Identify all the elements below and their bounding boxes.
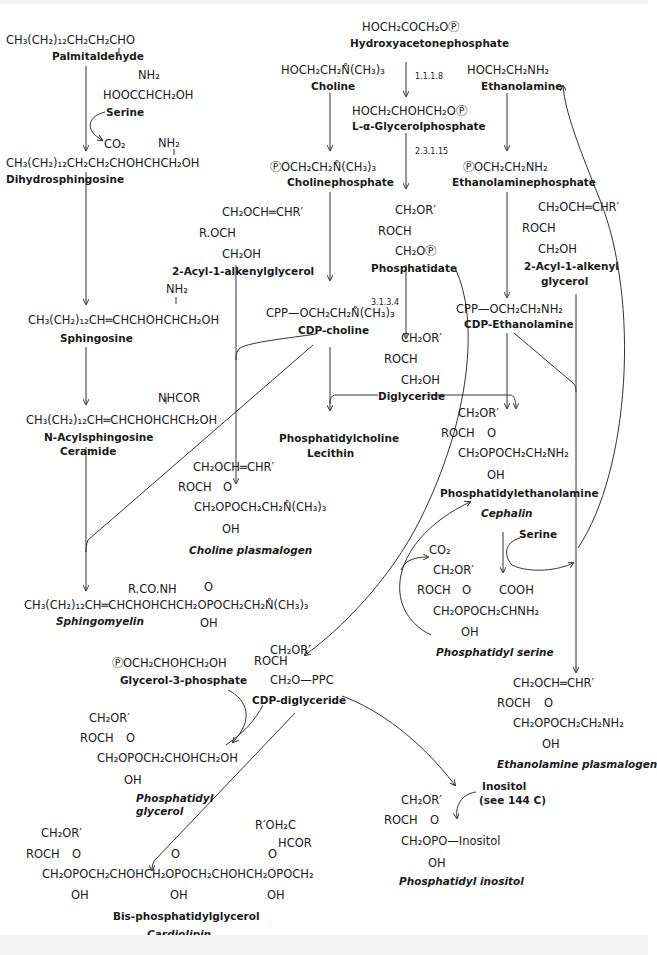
inositol-label: Inositol bbox=[482, 779, 526, 793]
phosphatidyl-glycerol-line2: ROCH bbox=[80, 731, 114, 745]
choline-plasmalogen-line3: CH₂OPOCH₂CH₂N̊(CH₃)₃ bbox=[194, 500, 326, 514]
acylalkenylglycerol-1-line2: R.OCH bbox=[199, 226, 236, 240]
cardiolipin-line1: CH₂OR′ bbox=[41, 826, 82, 840]
acylalkenylglycerol-1-line3: CH₂OH bbox=[222, 247, 261, 261]
palmitaldehyde-formula: CH₃(CH₂)₁₂CH₂CH₂CHO bbox=[6, 33, 135, 47]
choline-label: Choline bbox=[311, 79, 355, 93]
phosphatidyl-inositol-line1: CH₂OR′ bbox=[401, 793, 442, 807]
phosphatidyl-serine-line3: CH₂OPOCH₂CHNH₂ bbox=[433, 604, 539, 618]
phosphatidate-line2: ROCH bbox=[378, 224, 412, 238]
choline-plasmalogen-line2: ROCH bbox=[178, 480, 212, 494]
sphingomyelin-rconh: R.CO.NH bbox=[128, 582, 177, 596]
sphingomyelin-oh: OH bbox=[200, 616, 218, 630]
cardiolipin-o3: O bbox=[268, 847, 277, 861]
phosphatidate-line3: CH₂OⓅ bbox=[395, 244, 436, 258]
cdp-ethanolamine-formula: CPP—OCH₂CH₂NH₂ bbox=[456, 302, 563, 316]
ceramide-label-2: Ceramide bbox=[60, 444, 116, 458]
cardiolipin-line2: ROCH bbox=[26, 847, 60, 861]
choline-plasmalogen-oh: OH bbox=[222, 522, 240, 536]
co2-label-1: CO₂ bbox=[104, 137, 126, 151]
serine-label-2: Serine bbox=[519, 527, 557, 541]
cephalin-o: O bbox=[487, 426, 496, 440]
phosphatidyl-inositol-oh: OH bbox=[428, 856, 446, 870]
phosphatidate-label: Phosphatidate bbox=[371, 261, 457, 275]
ethanolamine-label: Ethanolamine bbox=[481, 79, 562, 93]
ethanolamine-plasmalogen-line2: ROCH bbox=[497, 696, 531, 710]
ethanolamine-plasmalogen-label: Ethanolamine plasmalogen bbox=[497, 757, 657, 771]
acylalkenylglycerol-2-label: 2-Acyl-1-alkenyl bbox=[524, 259, 619, 273]
choline-plasmalogen-label: Choline plasmalogen bbox=[189, 543, 312, 557]
phosphatidyl-serine-cooh: COOH bbox=[499, 583, 534, 597]
serine-label: Serine bbox=[106, 105, 144, 119]
dihydrosphingosine-nh2: NH₂ bbox=[158, 136, 180, 150]
dihydrosphingosine-label: Dihydrosphingosine bbox=[6, 172, 124, 186]
cdp-diglyceride-line3: CH₂O—PPC bbox=[270, 673, 334, 687]
sphingomyelin-formula: CH₃(CH₂)₁₂CH═CHCHOHCHCH₂OPOCH₂CH₂N̊(CH₃)… bbox=[24, 598, 308, 612]
diglyceride-line2: ROCH bbox=[384, 352, 418, 366]
serine-formula: HOOCCHCH₂OH bbox=[103, 88, 193, 102]
cephalin-oh: OH bbox=[487, 468, 505, 482]
diglyceride-label: Diglyceride bbox=[378, 389, 445, 403]
dihydrosphingosine-formula: CH₃(CH₂)₁₂CH₂CH₂CHOHCHCH₂OH bbox=[6, 156, 199, 170]
cephalin-line1: CH₂OR′ bbox=[458, 406, 499, 420]
glycerol3phosphate-formula: ⓅOCH₂CHOHCH₂OH bbox=[112, 656, 227, 670]
cdp-choline-label: CDP-choline bbox=[298, 323, 369, 337]
cardiolipin-oh1: OH bbox=[71, 888, 89, 902]
acylalkenylglycerol-2-label-2: glycerol bbox=[541, 274, 588, 288]
cephalin-line3: CH₂OPOCH₂CH₂NH₂ bbox=[458, 446, 569, 460]
cdp-diglyceride-label: CDP-diglyceride bbox=[252, 693, 346, 707]
phosphatidylcholine-label: Phosphatidylcholine bbox=[279, 431, 399, 445]
enzyme-2-3-1-15: 2.3.1.15 bbox=[415, 145, 448, 159]
cardiolipin-oh3: OH bbox=[267, 888, 285, 902]
diglyceride-line1: CH₂OR′ bbox=[401, 331, 442, 345]
phosphatidyl-serine-label: Phosphatidyl serine bbox=[436, 645, 554, 659]
phosphatidylethanolamine-label: Phosphatidylethanolamine bbox=[440, 486, 599, 500]
lecithin-label: Lecithin bbox=[307, 446, 354, 460]
phosphatidyl-glycerol-o: O bbox=[126, 731, 135, 745]
phosphatidyl-glycerol-label: Phosphatidyl bbox=[136, 791, 213, 805]
ceramide-label: N-Acylsphingosine bbox=[44, 430, 153, 444]
cardiolipin-r-mid: HCOR bbox=[278, 836, 312, 850]
hydroxyacetonephosphate-label: Hydroxyacetonephosphate bbox=[350, 36, 509, 50]
sphingosine-label: Sphingosine bbox=[60, 331, 133, 345]
cardiolipin-oh2: OH bbox=[170, 888, 188, 902]
ethanolamine-plasmalogen-oh: OH bbox=[542, 737, 560, 751]
cholinephosphate-formula: ⓅOCH₂CH₂N̊(CH₃)₃ bbox=[270, 160, 376, 174]
sphingosine-formula: CH₃(CH₂)₁₂CH═CHCHOHCHCH₂OH bbox=[28, 313, 219, 327]
phosphatidyl-inositol-label: Phosphatidyl inositol bbox=[399, 874, 524, 888]
acylalkenylglycerol-2-line3: CH₂OH bbox=[538, 242, 577, 256]
phosphatidate-line1: CH₂OR′ bbox=[395, 203, 436, 217]
ethanolaminephosphate-formula: ⓅOCH₂CH₂NH₂ bbox=[463, 160, 548, 174]
cdp-diglyceride-line2: ROCH bbox=[254, 654, 288, 668]
choline-plasmalogen-line1: CH₂OCH═CHR′ bbox=[193, 460, 274, 474]
glycerol3phosphate-label: Glycerol-3-phosphate bbox=[120, 673, 247, 687]
phosphatidyl-serine-line2: ROCH bbox=[417, 583, 451, 597]
glycerolphosphate-formula: HOCH₂CHOHCH₂OⓅ bbox=[352, 104, 467, 118]
ceramide-nhcor: NHCOR bbox=[158, 391, 200, 405]
ceramide-formula: CH₃(CH₂)₁₂CH═CHCHOHCHCH₂OH bbox=[26, 413, 217, 427]
cephalin-label: Cephalin bbox=[481, 506, 533, 520]
acylalkenylglycerol-1-line1: CH₂OCH═CHR′ bbox=[222, 205, 303, 219]
ethanolamine-plasmalogen-o: O bbox=[544, 696, 553, 710]
cdp-ethanolamine-label: CDP-Ethanolamine bbox=[464, 317, 574, 331]
cardiolipin-line3: CH₂OPOCH₂CHOHCH₂OPOCH₂CHOHCH₂OPOCH₂ bbox=[42, 867, 314, 881]
acylalkenylglycerol-1-label: 2-Acyl-1-alkenylglycerol bbox=[172, 264, 314, 278]
ethanolamine-formula: HOCH₂CH₂NH₂ bbox=[467, 63, 549, 77]
phosphatidyl-inositol-o: O bbox=[430, 813, 439, 827]
cephalin-line2: ROCH bbox=[441, 426, 475, 440]
phosphatidyl-glycerol-line1: CH₂OR′ bbox=[89, 711, 130, 725]
acylalkenylglycerol-2-line2: ROCH bbox=[522, 221, 556, 235]
bis-phosphatidylglycerol-label: Bis-phosphatidylglycerol bbox=[113, 909, 260, 923]
ethanolamine-plasmalogen-line3: CH₂OPOCH₂CH₂NH₂ bbox=[513, 716, 624, 730]
ethanolaminephosphate-label: Ethanolaminephosphate bbox=[452, 175, 596, 189]
phosphatidyl-inositol-line2: ROCH bbox=[384, 813, 418, 827]
phosphatidyl-serine-o: O bbox=[462, 583, 471, 597]
hydroxyacetonephosphate-formula: HOCH₂COCH₂OⓅ bbox=[362, 20, 459, 34]
phosphatidyl-glycerol-label-2: glycerol bbox=[136, 804, 183, 818]
palmitaldehyde-label: Palmitaldehyde bbox=[52, 49, 144, 63]
cardiolipin-r-top: R′OH₂C bbox=[255, 818, 296, 832]
sphingomyelin-label: Sphingomyelin bbox=[56, 614, 144, 628]
phosphatidyl-serine-oh: OH bbox=[461, 625, 479, 639]
cardiolipin-o2: O bbox=[171, 847, 180, 861]
